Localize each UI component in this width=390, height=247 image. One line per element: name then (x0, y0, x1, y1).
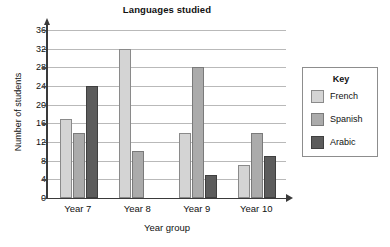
legend-title: Key (303, 74, 379, 84)
chart-title: Languages studied (48, 4, 286, 15)
bar-group (238, 30, 276, 198)
legend-swatch-spanish-icon (311, 113, 324, 126)
x-axis-arrow-icon (286, 194, 293, 202)
bar-spanish-year-8 (132, 151, 144, 198)
bar-spanish-year-7 (73, 133, 85, 198)
bar-group (179, 30, 217, 198)
bar-chart-figure: Languages studied Number of students Yea… (0, 0, 390, 247)
bar-arabic-year-10 (264, 156, 276, 198)
x-axis-title: Year group (48, 222, 286, 233)
bar-group (60, 30, 98, 198)
legend-swatch-french-icon (311, 90, 324, 103)
legend-label: Spanish (330, 114, 363, 124)
bar-spanish-year-10 (251, 133, 263, 198)
bar-french-year-10 (238, 165, 250, 198)
x-category-label: Year 7 (50, 203, 106, 214)
x-category-label: Year 8 (109, 203, 165, 214)
y-axis-ticks: 04812162024283236 (0, 0, 46, 247)
x-category-label: Year 9 (169, 203, 225, 214)
legend-label: Arabic (330, 137, 356, 147)
bar-french-year-8 (119, 49, 131, 198)
plot-area (48, 30, 286, 198)
bar-french-year-9 (179, 133, 191, 198)
y-axis-arrow-icon (44, 18, 50, 25)
bar-spanish-year-9 (192, 67, 204, 198)
legend-key-box: Key FrenchSpanishArabic (302, 67, 378, 157)
legend-label: French (330, 91, 358, 101)
bar-group (119, 30, 157, 198)
bar-arabic-year-7 (86, 86, 98, 198)
bar-french-year-7 (60, 119, 72, 198)
bar-arabic-year-9 (205, 175, 217, 198)
x-category-label: Year 10 (228, 203, 284, 214)
legend-swatch-arabic-icon (311, 136, 324, 149)
